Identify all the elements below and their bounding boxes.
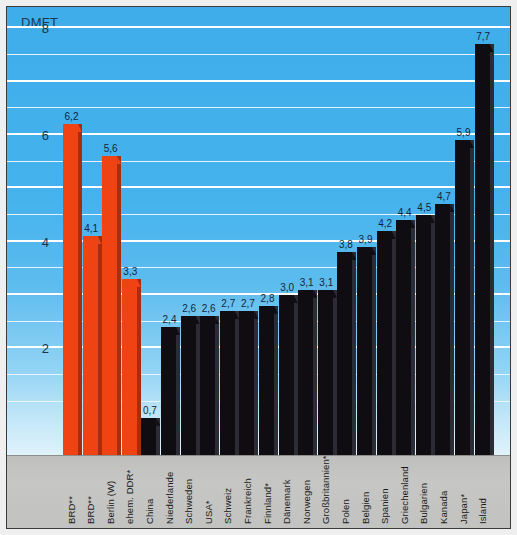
bar <box>396 220 415 455</box>
bar-face <box>298 290 313 455</box>
category-label: Dänemark <box>281 479 292 524</box>
gridline-8 <box>7 26 510 28</box>
bar-value-label: 3,0 <box>280 282 294 293</box>
bar-face <box>161 327 176 455</box>
bar-side <box>235 311 239 455</box>
category-label: Berlin (W) <box>105 481 116 524</box>
bar <box>455 140 474 455</box>
bar-face <box>122 279 137 455</box>
bar <box>161 327 180 455</box>
bar-side <box>313 290 317 455</box>
bar-side <box>450 204 454 455</box>
category-label: Island <box>477 498 488 524</box>
bar-face <box>141 418 156 455</box>
gridline-6-5 <box>7 107 510 108</box>
bar-face <box>259 306 274 455</box>
bar-side <box>215 316 219 455</box>
bar <box>475 44 494 455</box>
bar <box>122 279 141 455</box>
bar-side <box>137 279 141 455</box>
bar-face <box>279 295 294 455</box>
y-tick-6: 6 <box>23 128 49 143</box>
bar-side <box>333 290 337 455</box>
gridline-7-5 <box>7 54 510 55</box>
bar-side <box>176 327 180 455</box>
category-label: Frankreich <box>242 478 253 524</box>
bar <box>416 215 435 455</box>
bar-value-label: 2,4 <box>163 314 177 325</box>
category-label: BRD** <box>85 496 96 524</box>
bar-face <box>455 140 470 455</box>
bar <box>141 418 160 455</box>
y-tick-8: 8 <box>23 21 49 36</box>
bar <box>357 247 376 455</box>
category-label: Griechenland <box>399 466 410 524</box>
category-label: Norwegen <box>301 480 312 524</box>
gridline-5 <box>7 186 510 188</box>
bar-face <box>475 44 490 455</box>
category-label: Spanien <box>379 488 390 524</box>
bar-face <box>337 252 352 455</box>
bar-value-label: 3,9 <box>359 234 373 245</box>
bar <box>377 231 396 455</box>
y-tick-2: 2 <box>23 341 49 356</box>
bar <box>181 316 200 455</box>
category-label: Kanada <box>438 491 449 524</box>
bar <box>337 252 356 455</box>
bar-value-label: 3,3 <box>123 266 137 277</box>
bar-face <box>377 231 392 455</box>
category-label: ehem. DDR* <box>124 470 135 524</box>
gridline-5-5 <box>7 161 510 162</box>
bar-side <box>78 124 82 455</box>
bar-side <box>372 247 376 455</box>
bar-face <box>200 316 215 455</box>
bar-value-label: 2,6 <box>202 303 216 314</box>
category-label: Bulgarien <box>418 483 429 524</box>
gridline-6 <box>7 133 510 135</box>
bar-side <box>196 316 200 455</box>
chart-frame: DMFT 2468 6,24,15,63,30,72,42,62,62,72,7… <box>6 6 511 529</box>
bar-side <box>117 156 121 455</box>
category-label: Schweiz <box>222 488 233 524</box>
bar <box>318 290 337 455</box>
plot-area: DMFT 2468 6,24,15,63,30,72,42,62,62,72,7… <box>7 7 510 455</box>
bar <box>63 124 82 455</box>
bar-face <box>102 156 117 455</box>
bar <box>83 236 102 455</box>
bar-face <box>435 204 450 455</box>
bar-value-label: 2,6 <box>182 303 196 314</box>
gridline-7 <box>7 80 510 82</box>
bar-side <box>98 236 102 455</box>
bar-value-label: 4,5 <box>417 202 431 213</box>
bar <box>279 295 298 455</box>
bar-value-label: 3,8 <box>339 239 353 250</box>
bar <box>435 204 454 455</box>
bar-side <box>274 306 278 455</box>
category-label: Belgien <box>360 492 371 524</box>
bar-value-label: 4,1 <box>84 223 98 234</box>
category-label: Polen <box>340 499 351 524</box>
category-label: Schweden <box>183 479 194 524</box>
bar <box>259 306 278 455</box>
chart-screenshot: DMFT 2468 6,24,15,63,30,72,42,62,62,72,7… <box>0 0 517 535</box>
category-label: Finnland* <box>262 483 273 524</box>
bar-side <box>294 295 298 455</box>
bar-face <box>416 215 431 455</box>
bar-face <box>239 311 254 455</box>
bar <box>200 316 219 455</box>
bar-value-label: 0,7 <box>143 405 157 416</box>
bar-value-label: 4,7 <box>437 191 451 202</box>
bar <box>298 290 317 455</box>
bar-side <box>411 220 415 455</box>
bar-side <box>254 311 258 455</box>
bar-value-label: 6,2 <box>65 111 79 122</box>
bar-value-label: 2,8 <box>261 293 275 304</box>
bar-face <box>318 290 333 455</box>
bar-side <box>470 140 474 455</box>
bar-value-label: 3,1 <box>300 277 314 288</box>
bar-value-label: 5,6 <box>104 143 118 154</box>
bar-value-label: 2,7 <box>221 298 235 309</box>
bar <box>220 311 239 455</box>
bar-face <box>396 220 411 455</box>
bar-side <box>392 231 396 455</box>
